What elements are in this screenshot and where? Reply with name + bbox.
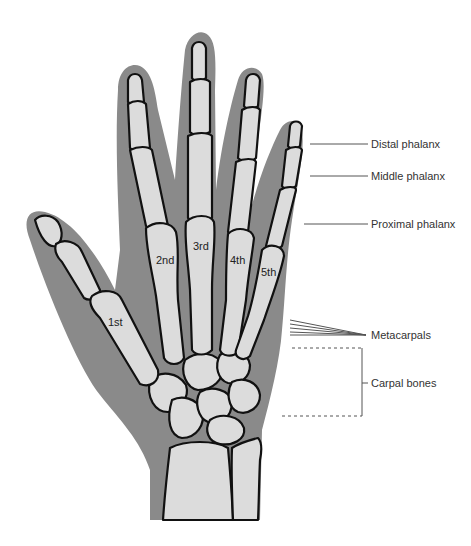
radius-bone bbox=[163, 442, 233, 520]
metacarpal-label-3rd: 3rd bbox=[193, 240, 209, 252]
label-middle-phalanx: Middle phalanx bbox=[371, 170, 445, 182]
metacarpal-label-1st: 1st bbox=[108, 316, 123, 328]
label-carpal-bones: Carpal bones bbox=[371, 377, 437, 389]
middle-finger-bones bbox=[185, 42, 214, 355]
forearm-bones bbox=[163, 438, 261, 520]
carpal-bones-bracket bbox=[282, 348, 368, 416]
metacarpals-leader bbox=[290, 320, 366, 335]
metacarpal-label-2nd: 2nd bbox=[156, 254, 174, 266]
label-proximal-phalanx: Proximal phalanx bbox=[371, 218, 456, 230]
label-distal-phalanx: Distal phalanx bbox=[371, 138, 441, 150]
metacarpal-label-4th: 4th bbox=[230, 254, 245, 266]
hand-bones-diagram: 1st 2nd 3rd 4th 5th Distal phalanx Middl… bbox=[0, 0, 471, 546]
anatomy-labels: Distal phalanx Middle phalanx Proximal p… bbox=[371, 138, 456, 389]
ulna-bone bbox=[232, 438, 262, 520]
metacarpal-label-5th: 5th bbox=[261, 266, 276, 278]
label-metacarpals: Metacarpals bbox=[371, 329, 431, 341]
